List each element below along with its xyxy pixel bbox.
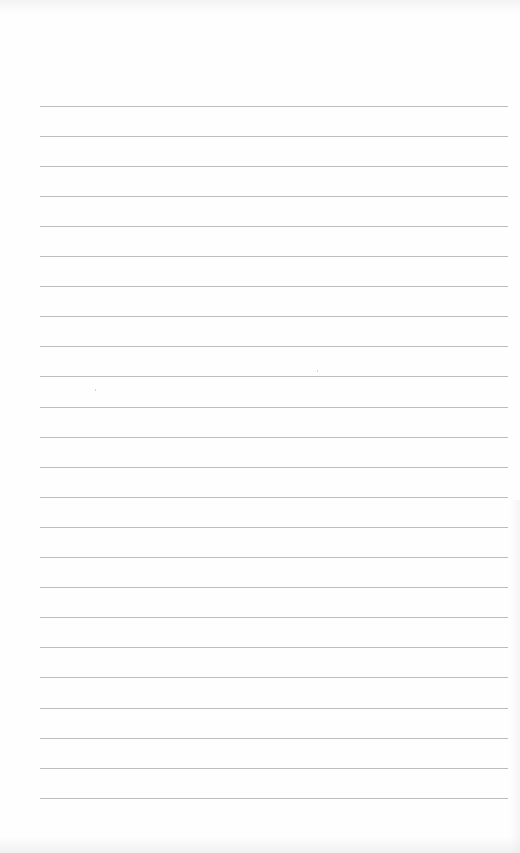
ruled-line xyxy=(40,798,508,799)
ruled-line xyxy=(40,587,508,588)
ruled-line xyxy=(40,437,508,438)
ruled-line xyxy=(40,346,508,347)
paper-edge-shading-bottom xyxy=(0,837,520,853)
paper-edge-shading-right xyxy=(510,500,520,853)
ruled-line xyxy=(40,196,508,197)
lined-paper-page xyxy=(0,0,520,853)
ruled-line xyxy=(40,497,508,498)
ruled-line xyxy=(40,226,508,227)
ruled-line xyxy=(40,677,508,678)
ruled-line xyxy=(40,617,508,618)
paper-speck xyxy=(95,389,96,391)
ruled-line xyxy=(40,376,508,377)
ruled-line xyxy=(40,316,508,317)
ruled-line xyxy=(40,768,508,769)
ruled-line xyxy=(40,557,508,558)
ruled-line xyxy=(40,256,508,257)
ruled-line xyxy=(40,708,508,709)
ruled-line xyxy=(40,286,508,287)
ruled-line xyxy=(40,407,508,408)
ruled-line xyxy=(40,647,508,648)
ruled-line xyxy=(40,106,508,107)
ruled-lines xyxy=(0,0,520,853)
ruled-line xyxy=(40,527,508,528)
ruled-line xyxy=(40,467,508,468)
ruled-line xyxy=(40,166,508,167)
ruled-line xyxy=(40,738,508,739)
paper-speck xyxy=(317,370,318,372)
ruled-line xyxy=(40,136,508,137)
